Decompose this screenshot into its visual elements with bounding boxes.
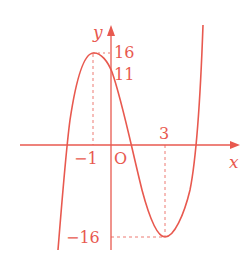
tick-label-16: 16 [114,43,134,62]
x-axis-arrow-icon [230,141,240,149]
tick-label-neg1: −1 [74,149,98,168]
y-axis-label: y [92,22,103,42]
origin-label: O [114,149,127,168]
tick-label-11: 11 [114,65,134,84]
tick-label-neg16: −16 [66,228,100,247]
y-axis-arrow-icon [107,25,115,36]
x-axis-label: x [229,152,239,172]
function-graph: y x O 16 11 −16 −1 3 [0,0,249,267]
tick-label-3: 3 [159,124,169,143]
